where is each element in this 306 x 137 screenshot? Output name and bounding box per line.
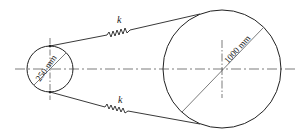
- spring-label-top: k: [117, 14, 122, 25]
- diagram-canvas: 250 mm 1000 mm k k: [0, 0, 306, 137]
- spring-label-bottom: k: [118, 94, 123, 105]
- large-diameter-label: 1000 mm: [222, 33, 252, 65]
- belt-drive-diagram: 250 mm 1000 mm k k: [0, 0, 306, 137]
- small-diameter-label: 250 mm: [33, 53, 58, 83]
